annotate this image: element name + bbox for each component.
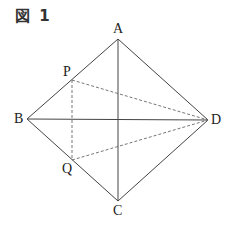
diagonal-BD <box>27 119 208 120</box>
label-Q: Q <box>62 162 72 176</box>
label-P: P <box>63 65 71 79</box>
label-C: C <box>113 204 122 218</box>
label-A: A <box>113 22 123 36</box>
label-B: B <box>14 112 23 126</box>
label-D: D <box>211 113 221 127</box>
dashed-QD <box>72 120 208 160</box>
edge-DA <box>118 39 208 120</box>
edge-CD <box>118 120 208 201</box>
dashed-PD <box>72 80 208 120</box>
edge-AB <box>27 39 118 119</box>
